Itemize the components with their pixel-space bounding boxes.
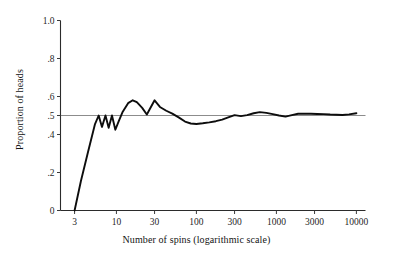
x-axis-title: Number of spins (logarithmic scale) xyxy=(0,234,393,245)
x-tick-label: 300 xyxy=(227,217,242,227)
x-tick-label: 3000 xyxy=(305,217,324,227)
x-tick-label: 1000 xyxy=(267,217,286,227)
chart-figure: 0.2.4.5.6.81.0310301003001000300010000 N… xyxy=(0,0,393,261)
tick-label-group: 0.2.4.5.6.81.0310301003001000300010000 xyxy=(43,16,369,227)
data-line-proportion-of-heads xyxy=(75,100,357,210)
tick-group xyxy=(57,21,356,215)
y-tick-label: 1.0 xyxy=(43,16,55,26)
y-tick-label: .6 xyxy=(47,92,54,102)
y-tick-label: .4 xyxy=(47,130,54,140)
y-tick-label: 0 xyxy=(50,206,55,216)
y-axis-title: Proportion of heads xyxy=(14,35,25,185)
y-tick-label: .2 xyxy=(47,168,54,178)
y-tick-label: .5 xyxy=(47,111,54,121)
x-tick-label: 10000 xyxy=(345,217,369,227)
x-tick-label: 10 xyxy=(112,217,122,227)
x-tick-label: 30 xyxy=(150,217,160,227)
y-tick-label: .8 xyxy=(47,54,54,64)
chart-plot-area: 0.2.4.5.6.81.0310301003001000300010000 xyxy=(0,0,393,261)
x-tick-label: 3 xyxy=(72,217,77,227)
x-tick-label: 100 xyxy=(189,217,204,227)
data-series-group xyxy=(75,100,357,210)
